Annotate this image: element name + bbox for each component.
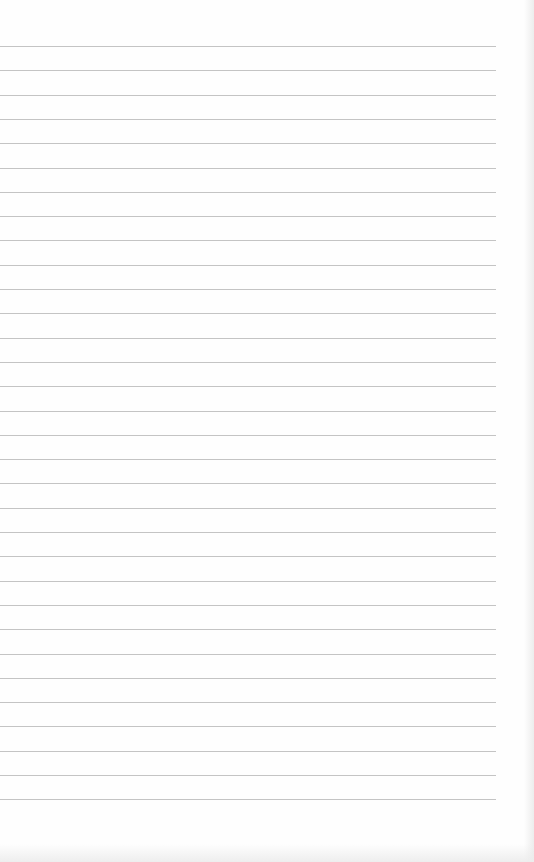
ruled-line	[0, 289, 496, 290]
ruled-line	[0, 775, 496, 776]
ruled-line	[0, 629, 496, 630]
ruled-line	[0, 46, 496, 47]
ruled-line	[0, 70, 496, 71]
ruled-line	[0, 678, 496, 679]
ruled-line	[0, 751, 496, 752]
ruled-line	[0, 362, 496, 363]
ruled-line	[0, 313, 496, 314]
ruled-line	[0, 702, 496, 703]
ruled-line	[0, 168, 496, 169]
ruled-line	[0, 799, 496, 800]
ruled-line	[0, 411, 496, 412]
ruled-line	[0, 508, 496, 509]
ruled-line	[0, 605, 496, 606]
ruled-line	[0, 483, 496, 484]
bottom-edge-shadow	[0, 844, 534, 862]
ruled-line	[0, 265, 496, 266]
ruled-line	[0, 338, 496, 339]
ruled-line	[0, 119, 496, 120]
ruled-line	[0, 726, 496, 727]
ruled-line	[0, 192, 496, 193]
ruled-line	[0, 581, 496, 582]
ruled-line	[0, 532, 496, 533]
ruled-line	[0, 435, 496, 436]
ruled-line	[0, 459, 496, 460]
ruled-line	[0, 143, 496, 144]
ruled-line	[0, 556, 496, 557]
ruled-line	[0, 386, 496, 387]
ruled-line	[0, 95, 496, 96]
ruled-line	[0, 240, 496, 241]
lined-paper	[0, 0, 534, 862]
right-edge-shadow	[524, 0, 534, 862]
ruled-line	[0, 654, 496, 655]
ruled-line	[0, 216, 496, 217]
